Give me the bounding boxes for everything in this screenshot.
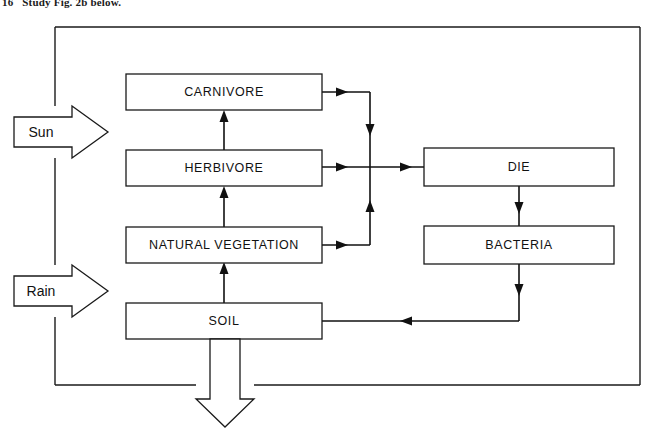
- flow-die-to-bacteria: [515, 186, 524, 226]
- flow-bacteria-to-soil: [322, 264, 524, 326]
- input-arrow-sun: Sun: [14, 106, 108, 158]
- node-label-carnivore: CARNIVORE: [184, 85, 264, 99]
- ecosystem-flow-diagram: CARNIVORE HERBIVORE NATURAL VEGETATION S…: [0, 0, 655, 431]
- flow-carnivore-to-die: [322, 88, 375, 168]
- flow-connectors: [220, 88, 524, 326]
- input-arrow-label-rain: Rain: [27, 283, 56, 299]
- node-label-soil: SOIL: [209, 314, 240, 328]
- node-bacteria: BACTERIA: [424, 226, 614, 264]
- node-label-die: DIE: [508, 160, 531, 174]
- flow-vegetation-to-herbivore: [220, 186, 229, 227]
- node-label-natural-vegetation: NATURAL VEGETATION: [149, 238, 299, 252]
- output-arrow-leaching: [196, 339, 254, 427]
- flow-soil-to-vegetation: [220, 262, 229, 303]
- diagram-page: 16 Study Fig. 2b below.: [0, 0, 655, 431]
- node-label-herbivore: HERBIVORE: [184, 161, 263, 175]
- flow-herbivore-to-carnivore: [220, 110, 229, 150]
- node-label-bacteria: BACTERIA: [485, 238, 552, 252]
- node-herbivore: HERBIVORE: [126, 150, 322, 186]
- input-arrow-rain: Rain: [14, 265, 108, 317]
- node-soil: SOIL: [126, 303, 322, 339]
- node-carnivore: CARNIVORE: [126, 74, 322, 110]
- node-die: DIE: [424, 148, 614, 186]
- node-natural-vegetation: NATURAL VEGETATION: [126, 227, 322, 263]
- flow-herbivore-to-die: [322, 163, 424, 172]
- flow-vegetation-to-die: [322, 167, 375, 250]
- input-arrow-label-sun: Sun: [29, 124, 54, 140]
